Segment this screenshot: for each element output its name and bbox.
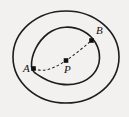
figure-canvas: APB [0,0,129,117]
point-label-b: B [96,24,103,36]
point-marker-b [89,38,94,43]
point-label-p: P [63,63,71,75]
point-marker-a [31,66,36,71]
point-label-a: A [22,62,30,74]
geometry-figure: APB [0,0,129,117]
